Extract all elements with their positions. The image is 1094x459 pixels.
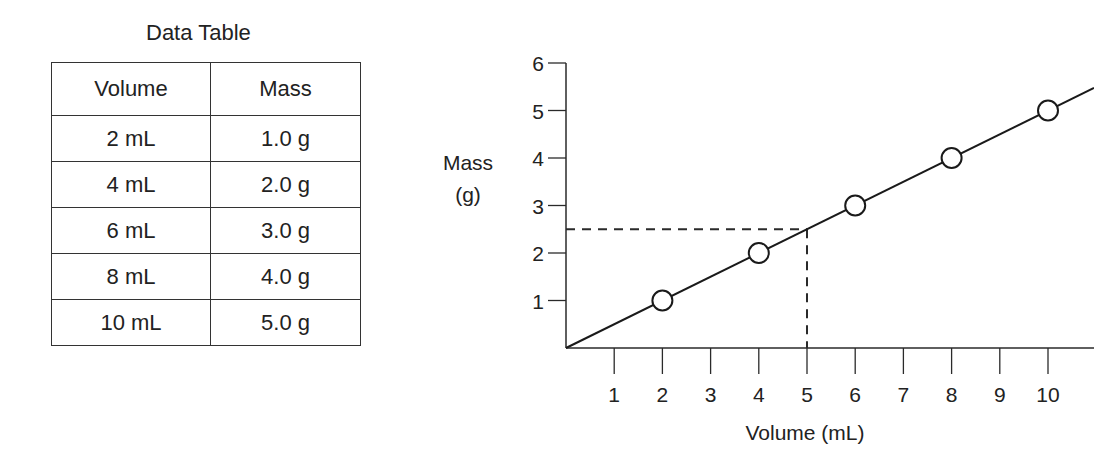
data-point-marker [749,243,769,263]
y-axis-label-line1: Mass [443,151,493,174]
x-axis-label: Volume (mL) [745,421,864,444]
x-tick-label: 6 [849,383,861,406]
y-tick-label: 5 [532,100,544,123]
y-axis-label-line2: (g) [455,183,481,206]
data-points [652,101,1058,311]
data-point-marker [942,148,962,168]
data-point-marker [845,196,865,216]
y-tick-label: 2 [532,242,544,265]
y-tick-label: 3 [532,195,544,218]
data-point-marker [652,291,672,311]
fit-line [566,88,1094,348]
y-tick-label: 4 [532,147,544,170]
mass-volume-chart: 12345612345678910 Mass (g) Volume (mL) [0,0,1094,459]
x-tick-label: 8 [946,383,958,406]
y-tick-label: 1 [532,290,544,313]
x-tick-label: 7 [898,383,910,406]
x-tick-label: 9 [994,383,1006,406]
y-tick-label: 6 [532,52,544,75]
data-point-marker [1038,101,1058,121]
x-tick-label: 4 [753,383,765,406]
x-tick-label: 5 [801,383,813,406]
x-tick-label: 1 [608,383,620,406]
x-tick-label: 2 [657,383,669,406]
x-tick-label: 10 [1036,383,1059,406]
best-fit-line [566,88,1094,348]
x-tick-label: 3 [705,383,717,406]
